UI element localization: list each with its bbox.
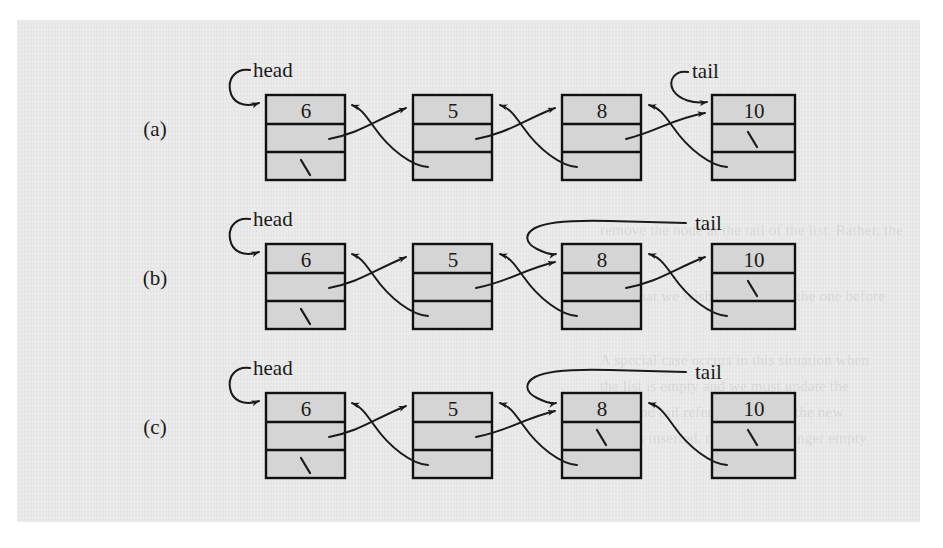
node-c-2-value: 8: [597, 397, 608, 421]
node-a-0-value: 6: [301, 99, 312, 123]
node-b-3-value: 10: [744, 248, 765, 272]
node-b-1-value: 5: [448, 248, 459, 272]
row-label-c: (c): [143, 415, 166, 439]
node-a-2-value: 8: [597, 99, 608, 123]
node-c-1-value: 5: [448, 397, 459, 421]
row-b: (b) head 6 5: [143, 207, 795, 329]
row-label-a: (a): [143, 117, 166, 141]
node-a-3-value: 10: [744, 99, 765, 123]
node-c-3-value: 10: [744, 397, 765, 421]
tail-label-c: tail: [695, 360, 722, 384]
node-b-0-value: 6: [301, 248, 312, 272]
row-label-b: (b): [143, 266, 168, 290]
figure-canvas: (a) head 6 5: [0, 0, 943, 548]
row-a: (a) head 6 5: [143, 58, 795, 180]
tail-label-a: tail: [692, 59, 719, 83]
node-a-1-value: 5: [448, 99, 459, 123]
row-c: (c) head 6 5: [143, 356, 795, 478]
tail-label-b: tail: [695, 211, 722, 235]
figure-root: remove the node at the tail of the list.…: [0, 0, 943, 548]
head-label-a: head: [253, 58, 293, 82]
head-label-c: head: [253, 356, 293, 380]
head-label-b: head: [253, 207, 293, 231]
node-b-2-value: 8: [597, 248, 608, 272]
node-c-0-value: 6: [301, 397, 312, 421]
